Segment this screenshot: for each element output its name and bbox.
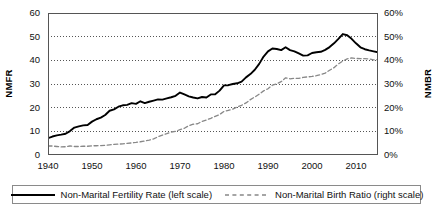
right-axis-tick-label: 20% [384, 102, 414, 113]
x-axis-tick-label: 1960 [116, 160, 156, 171]
series-line-1 [48, 34, 378, 138]
left-axis-tick-label: 10 [14, 125, 40, 136]
series-line-2 [48, 58, 378, 147]
chart-svg [48, 13, 378, 155]
legend-label: Non-Marital Fertility Rate (left scale) [61, 189, 213, 200]
left-axis-tick-label: 50 [14, 31, 40, 42]
solid-line-icon [10, 190, 56, 200]
x-axis-tick-label: 1990 [248, 160, 288, 171]
x-axis-tick-label: 1970 [160, 160, 200, 171]
gridlines [48, 13, 378, 155]
left-axis-tick-label: 40 [14, 54, 40, 65]
dashed-line-icon [224, 190, 270, 200]
left-axis-tick-label: 0 [14, 149, 40, 160]
right-axis-tick-label: 0% [384, 149, 414, 160]
chart-legend: Non-Marital Fertility Rate (left scale)N… [12, 185, 421, 204]
right-axis-tick-label: 40% [384, 54, 414, 65]
right-axis-tick-label: 10% [384, 125, 414, 136]
right-axis-title: NMBR [422, 64, 433, 104]
chart-container: NMFR NMBR 0102030405060 0%10%20%30%40%50… [0, 0, 435, 210]
x-axis-tick-label: 2010 [336, 160, 376, 171]
left-axis-tick-label: 30 [14, 78, 40, 89]
x-axis-tick-label: 1950 [72, 160, 112, 171]
plot-area [48, 13, 378, 155]
x-axis-tick-label: 1940 [28, 160, 68, 171]
data-series-group [48, 34, 378, 147]
right-axis-tick-label: 50% [384, 31, 414, 42]
x-axis-tick-label: 1980 [204, 160, 244, 171]
x-axis-tick-label: 2000 [292, 160, 332, 171]
right-axis-tick-label: 60% [384, 7, 414, 18]
left-axis-tick-label: 20 [14, 102, 40, 113]
legend-label: Non-Marital Birth Ratio (right scale) [275, 189, 423, 200]
legend-entry-1[interactable]: Non-Marital Fertility Rate (left scale) [4, 189, 219, 200]
legend-entry-2[interactable]: Non-Marital Birth Ratio (right scale) [218, 189, 429, 200]
left-axis-tick-label: 60 [14, 7, 40, 18]
right-axis-tick-label: 30% [384, 78, 414, 89]
left-axis-title: NMFR [3, 64, 14, 104]
